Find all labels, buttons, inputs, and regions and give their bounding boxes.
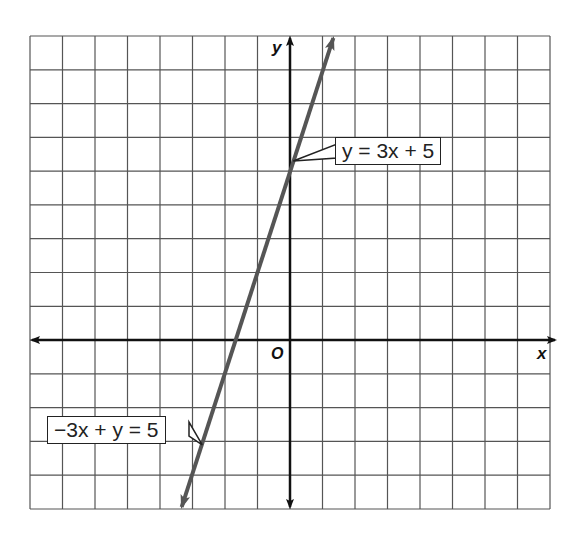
coordinate-plane: y x O y = 3x + 5 −3x + y = 5 <box>0 0 577 537</box>
graph-svg <box>0 0 577 537</box>
x-axis-label: x <box>537 344 546 364</box>
y-axis-label: y <box>272 38 281 58</box>
origin-label: O <box>271 345 283 363</box>
equation-callout-slope-intercept: y = 3x + 5 <box>335 137 441 165</box>
equation-text: −3x + y = 5 <box>54 418 159 441</box>
callout-leaders <box>189 144 337 445</box>
equation-text: y = 3x + 5 <box>342 139 434 162</box>
equation-callout-standard-form: −3x + y = 5 <box>47 416 166 444</box>
